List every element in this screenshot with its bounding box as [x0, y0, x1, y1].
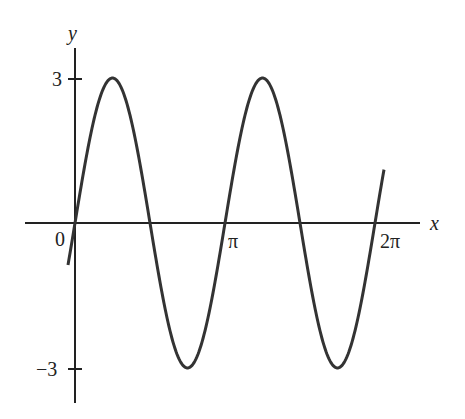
sine-plot: x y 0 π 2π 3 −3: [0, 0, 465, 419]
y-max-label: 3: [52, 68, 62, 90]
two-pi-label: 2π: [380, 230, 400, 252]
x-axis-label: x: [429, 212, 439, 234]
origin-label: 0: [55, 228, 65, 250]
y-axis-label: y: [66, 22, 77, 45]
chart-container: x y 0 π 2π 3 −3: [0, 0, 465, 419]
y-min-label: −3: [36, 358, 57, 380]
pi-label: π: [228, 230, 238, 252]
